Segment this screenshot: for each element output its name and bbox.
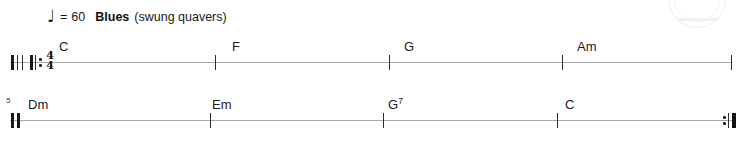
chord-symbol: C bbox=[59, 40, 68, 53]
time-signature: 4 4 bbox=[43, 51, 57, 71]
watermark-band bbox=[678, 18, 718, 21]
repeat-start-dots bbox=[39, 55, 42, 70]
chord-symbol: C bbox=[565, 98, 574, 111]
staff-line bbox=[10, 62, 732, 63]
staff-system-2: 5 Dm Em G7 C bbox=[0, 96, 744, 142]
tempo-equals-sign: = bbox=[60, 11, 67, 24]
chord-symbol: F bbox=[232, 40, 240, 53]
tempo-bpm-value: 60 bbox=[71, 11, 85, 24]
barline bbox=[383, 113, 384, 128]
watermark-stamp-icon bbox=[668, 0, 726, 28]
system2-opening-barline-thick-2 bbox=[17, 113, 20, 128]
staff-line bbox=[10, 120, 732, 121]
style-title: Blues bbox=[95, 11, 129, 24]
opening-barline-thin bbox=[17, 55, 18, 70]
chord-quality: 7 bbox=[398, 96, 403, 106]
opening-barline-thin-2 bbox=[22, 55, 23, 70]
repeat-end-dots bbox=[723, 113, 726, 128]
system-end-barline bbox=[731, 55, 732, 70]
chord-symbol: Am bbox=[577, 40, 597, 53]
barline bbox=[389, 55, 390, 70]
repeat-end-thick-barline bbox=[732, 113, 736, 128]
repeat-start-thick-barline bbox=[30, 55, 33, 70]
barline bbox=[210, 113, 211, 128]
chord-symbol: G7 bbox=[388, 98, 403, 111]
repeat-start-thin-barline bbox=[35, 55, 36, 70]
chord-symbol: G bbox=[404, 40, 414, 53]
system2-opening-barline-thick bbox=[11, 113, 14, 128]
chord-symbol: Dm bbox=[28, 98, 48, 111]
repeat-end-thin-barline bbox=[728, 113, 729, 128]
chord-root: G bbox=[388, 97, 398, 112]
quarter-note-icon: ♩ bbox=[47, 8, 55, 25]
staff-system-1: 4 4 C F G Am bbox=[0, 38, 744, 84]
chord-symbol: Em bbox=[212, 98, 232, 111]
barline bbox=[557, 113, 558, 128]
tempo-marking: ♩ = 60 Blues (swung quavers) bbox=[47, 7, 227, 24]
barline bbox=[562, 55, 563, 70]
opening-barline-thick bbox=[11, 55, 14, 70]
measure-number: 5 bbox=[6, 97, 10, 105]
style-performance-note: (swung quavers) bbox=[134, 11, 226, 24]
barline bbox=[215, 55, 216, 70]
time-signature-denominator: 4 bbox=[43, 61, 57, 71]
